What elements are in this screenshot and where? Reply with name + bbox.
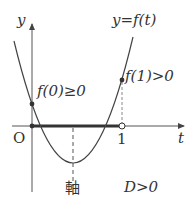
origin-point bbox=[30, 124, 35, 129]
parabola-diagram bbox=[0, 0, 194, 204]
y-axis-label: y bbox=[17, 13, 25, 28]
f1-annotation: f(1)>0 bbox=[125, 69, 174, 84]
x-axis-label: t bbox=[178, 131, 184, 146]
curve-label: y=f(t) bbox=[112, 13, 156, 28]
axis-of-symmetry-label: 軸 bbox=[65, 181, 80, 196]
t1-open-point bbox=[119, 123, 125, 129]
f0-point bbox=[30, 102, 35, 107]
f0-annotation: f(0)≥0 bbox=[37, 84, 86, 99]
origin-label: O bbox=[13, 131, 25, 146]
f1-point bbox=[120, 78, 125, 83]
tick-one-label: 1 bbox=[117, 132, 127, 147]
discriminant-label: D>0 bbox=[124, 180, 158, 195]
